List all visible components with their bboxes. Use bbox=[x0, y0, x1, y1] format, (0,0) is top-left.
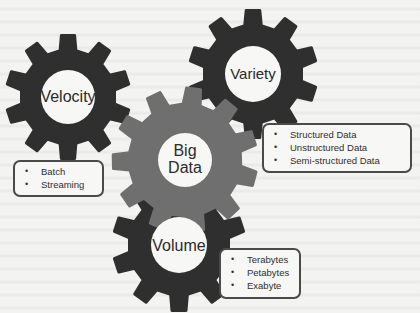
bullet-icon: • bbox=[274, 141, 290, 154]
list-item-text: Batch bbox=[41, 165, 65, 178]
list-item: •Unstructured Data bbox=[274, 141, 402, 154]
bullet-icon: • bbox=[231, 279, 247, 292]
list-item-text: Semi-structured Data bbox=[290, 154, 380, 167]
velocity-list: •Batch •Streaming bbox=[25, 165, 94, 191]
list-item-text: Exabyte bbox=[247, 279, 281, 292]
bullet-icon: • bbox=[25, 165, 41, 178]
list-item: •Semi-structured Data bbox=[274, 154, 402, 167]
bullet-icon: • bbox=[231, 253, 247, 266]
bullet-icon: • bbox=[274, 154, 290, 167]
list-item-text: Unstructured Data bbox=[290, 141, 367, 154]
big-data-label-line1: Big bbox=[168, 143, 202, 160]
list-item-text: Structured Data bbox=[290, 128, 357, 141]
bullet-icon: • bbox=[25, 178, 41, 191]
bullet-icon: • bbox=[231, 266, 247, 279]
bullet-icon: • bbox=[274, 128, 290, 141]
list-item: •Streaming bbox=[25, 178, 94, 191]
volume-label: Volume bbox=[152, 238, 205, 255]
velocity-box: •Batch •Streaming bbox=[13, 160, 104, 197]
list-item: •Batch bbox=[25, 165, 94, 178]
volume-list: •Terabytes •Petabytes •Exabyte bbox=[231, 253, 291, 292]
list-item-text: Petabytes bbox=[247, 266, 289, 279]
variety-box: •Structured Data •Unstructured Data •Sem… bbox=[262, 123, 412, 173]
velocity-label: Velocity bbox=[40, 89, 95, 106]
list-item: •Terabytes bbox=[231, 253, 291, 266]
variety-list: •Structured Data •Unstructured Data •Sem… bbox=[274, 128, 402, 167]
variety-label: Variety bbox=[230, 66, 276, 82]
list-item-text: Streaming bbox=[41, 178, 84, 191]
big-data-label-line2: Data bbox=[168, 160, 202, 177]
volume-box: •Terabytes •Petabytes •Exabyte bbox=[219, 248, 301, 299]
list-item-text: Terabytes bbox=[247, 253, 288, 266]
list-item: •Exabyte bbox=[231, 279, 291, 292]
list-item: •Structured Data bbox=[274, 128, 402, 141]
big-data-label: Big Data bbox=[168, 143, 202, 177]
list-item: •Petabytes bbox=[231, 266, 291, 279]
